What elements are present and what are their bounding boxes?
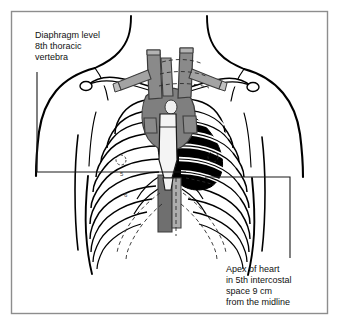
left-acromion [80, 82, 92, 91]
pulmonary-trunk-highlight [165, 100, 177, 114]
anatomy-illustration: 5 6 Diaphragm level 8th thoracic vertebr… [0, 0, 339, 327]
anatomy-figure: 5 6 Diaphragm level 8th thoracic vertebr… [0, 0, 339, 327]
diaphragm-callout-line-3: vertebra [35, 52, 68, 62]
sternum-body [159, 114, 177, 178]
inferior-vena-cava [172, 178, 181, 228]
apex-callout-line-4: from the midline [226, 297, 290, 307]
apex-callout-line-3: space 9 cm [226, 286, 272, 296]
apex-callout-line-1: Apex of heart [226, 264, 280, 274]
superior-vena-cava [144, 118, 157, 133]
apex-callout-line-2: in 5th intercostal [226, 275, 292, 285]
pulmonary-artery-stub [183, 116, 197, 133]
right-acromion [247, 83, 259, 92]
left-carotid-lumen [147, 50, 160, 55]
xiphoid-process [163, 178, 173, 190]
diaphragm-callout-line-2: 8th thoracic [35, 41, 82, 51]
diaphragm-callout-line-1: Diaphragm level [35, 30, 100, 40]
brachiocephalic-trunk [161, 58, 173, 96]
right-carotid-lumen [180, 48, 193, 53]
